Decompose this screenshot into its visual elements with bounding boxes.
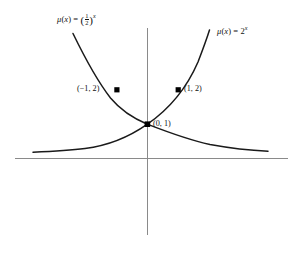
fraction-one-half: 12 — [85, 13, 89, 27]
point-label-minus1-2: (−1, 2) — [77, 85, 99, 93]
paren-close-right: ) — [228, 26, 231, 36]
fraction-denominator: 2 — [85, 20, 89, 27]
point-label-0-1: (0, 1) — [153, 120, 171, 128]
equals-sign-left: = — [73, 14, 78, 24]
exponent-x-left: x — [93, 12, 96, 19]
plot-canvas — [0, 0, 300, 253]
point-marker-minus1-2 — [114, 87, 119, 92]
exponential-functions-graph: μ(x) = (12)x μ(x) = 2x (−1, 2) (1, 2) (0… — [0, 0, 300, 253]
curve-label-half-to-the-x: μ(x) = (12)x — [57, 13, 96, 27]
exponent-x-right: x — [245, 24, 248, 31]
point-marker-1-2 — [176, 87, 181, 92]
point-label-1-2: (1, 2) — [184, 85, 202, 93]
equals-sign-right: = — [233, 26, 238, 36]
point-marker-0-1 — [145, 121, 151, 127]
curve-half-to-the-x-smooth — [73, 34, 268, 152]
curve-label-two-to-the-x: μ(x) = 2x — [217, 25, 248, 35]
paren-close-left: ) — [68, 14, 71, 24]
